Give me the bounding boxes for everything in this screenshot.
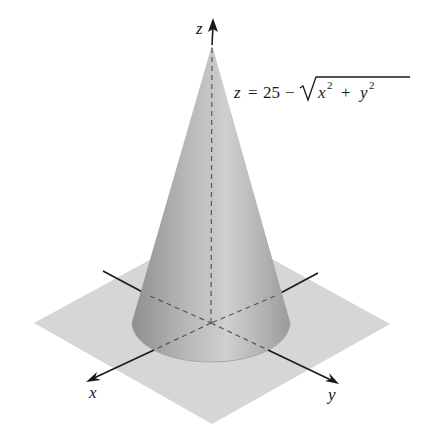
svg-text:z: z	[233, 83, 241, 102]
svg-text:x: x	[317, 83, 326, 102]
svg-text:=: =	[248, 83, 258, 102]
z-axis-label: z	[195, 19, 203, 38]
cone-equation: z = 25 − x 2 + y 2	[233, 77, 410, 102]
svg-text:y: y	[358, 83, 368, 102]
x-axis-arrowhead	[86, 372, 101, 382]
svg-text:−: −	[285, 83, 295, 102]
sqrt-radical-sign	[300, 77, 410, 100]
x-axis-label: x	[88, 383, 97, 402]
svg-text:+: +	[341, 83, 351, 102]
cone-diagram: z x y z = 25 − x 2 + y 2	[0, 0, 429, 431]
svg-text:2: 2	[327, 79, 333, 91]
svg-text:25: 25	[263, 83, 280, 102]
svg-text:2: 2	[369, 79, 375, 91]
y-axis-label: y	[326, 385, 336, 404]
